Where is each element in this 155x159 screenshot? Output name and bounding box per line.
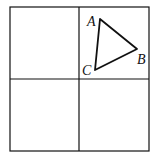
vertex-label-a: A — [86, 14, 96, 29]
diagram-canvas: A B C — [0, 0, 155, 159]
vertex-label-c: C — [82, 63, 92, 78]
triangle-abc — [95, 19, 137, 70]
vertex-label-b: B — [137, 52, 146, 67]
